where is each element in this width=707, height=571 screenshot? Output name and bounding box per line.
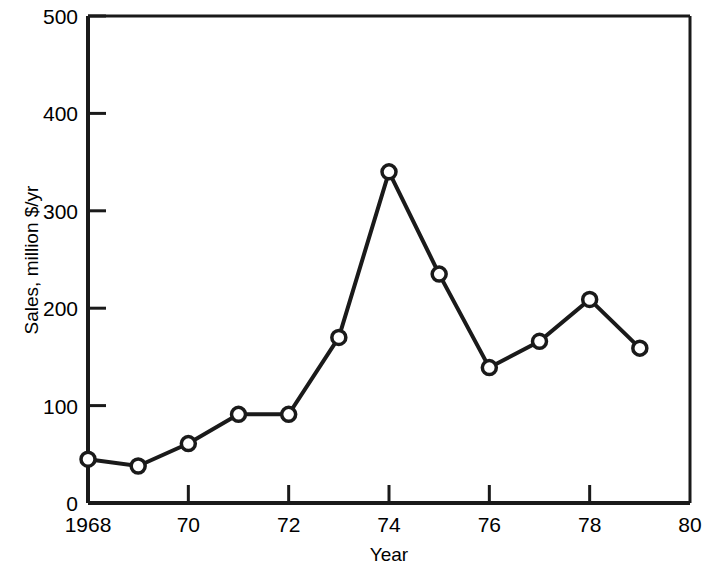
data-point-marker [482,361,496,375]
x-tick-label: 80 [678,513,701,536]
y-tick-label: 400 [43,102,78,125]
data-point-marker [432,267,446,281]
data-point-marker [232,407,246,421]
x-axis-tick-labels: 1968707274767880 [65,513,702,536]
y-axis-title: Sales, million $/yr [21,185,42,335]
y-tick-label: 0 [66,492,78,515]
x-tick-label: 72 [277,513,300,536]
x-tick-label: 78 [578,513,601,536]
data-point-marker [332,330,346,344]
y-tick-label: 200 [43,297,78,320]
data-point-marker [633,341,647,355]
x-tick-label: 1968 [65,513,112,536]
x-axis-title: Year [370,544,409,565]
data-point-marker [382,165,396,179]
data-point-marker [583,292,597,306]
y-tick-label: 300 [43,200,78,223]
plot-area-background [88,16,690,503]
y-tick-label: 500 [43,5,78,28]
x-tick-label: 74 [377,513,401,536]
data-point-marker [131,459,145,473]
data-point-marker [81,452,95,466]
data-point-marker [533,334,547,348]
figure-container: 0100200300400500 1968707274767880 Sales,… [0,0,707,571]
y-axis-tick-labels: 0100200300400500 [43,5,78,515]
x-tick-label: 76 [478,513,501,536]
data-point-marker [181,437,195,451]
y-tick-label: 100 [43,395,78,418]
data-point-marker [282,407,296,421]
x-tick-label: 70 [177,513,200,536]
line-chart: 0100200300400500 1968707274767880 Sales,… [0,0,707,571]
